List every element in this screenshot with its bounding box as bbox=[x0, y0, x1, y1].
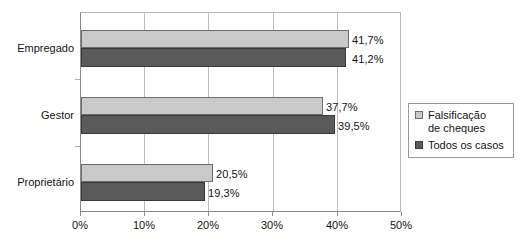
legend-swatch-falsificacao-de-cheques bbox=[415, 111, 423, 119]
bar-empregado-falsificacao-de-cheques bbox=[81, 30, 349, 48]
y-axis-label-proprietario: Proprietário bbox=[17, 176, 74, 188]
data-label-empregado-todos-os-casos: 41,2% bbox=[352, 54, 384, 65]
x-axis-label-40pct: 40% bbox=[326, 219, 348, 231]
legend-item-todos-os-casos: Todos os casos bbox=[415, 139, 508, 152]
x-axis-label-10pct: 10% bbox=[133, 219, 155, 231]
bar-proprietario-todos-os-casos bbox=[81, 182, 205, 201]
bar-gestor-falsificacao-de-cheques bbox=[81, 97, 323, 115]
x-axis-label-0pct: 0% bbox=[72, 219, 88, 231]
bar-proprietario-falsificacao-de-cheques bbox=[81, 164, 213, 182]
y-axis-label-gestor: Gestor bbox=[41, 109, 74, 121]
data-label-gestor-falsificacao-de-cheques: 37,7% bbox=[326, 102, 358, 113]
legend-label-falsificacao-de-cheques: Falsificação de cheques bbox=[428, 109, 486, 135]
bar-empregado-todos-os-casos bbox=[81, 48, 346, 67]
x-axis-label-20pct: 20% bbox=[197, 219, 219, 231]
y-axis-label-empregado: Empregado bbox=[17, 42, 74, 54]
x-axis-tick-30pct bbox=[272, 212, 273, 216]
data-label-proprietario-falsificacao-de-cheques: 20,5% bbox=[216, 169, 248, 180]
legend: Falsificação de cheques Todos os casos bbox=[408, 103, 514, 158]
x-axis-tick-0pct bbox=[80, 212, 81, 216]
bar-gestor-todos-os-casos bbox=[81, 115, 335, 134]
data-label-proprietario-todos-os-casos: 19,3% bbox=[208, 188, 240, 199]
bar-chart: Empregado Gestor Proprietário 41,7% 41,2… bbox=[0, 0, 521, 250]
legend-item-falsificacao-de-cheques: Falsificação de cheques bbox=[415, 109, 508, 135]
x-axis-tick-40pct bbox=[337, 212, 338, 216]
legend-label-todos-os-casos: Todos os casos bbox=[428, 139, 504, 152]
legend-swatch-todos-os-casos bbox=[415, 141, 423, 149]
data-label-empregado-falsificacao-de-cheques: 41,7% bbox=[352, 35, 384, 46]
x-axis-tick-50pct bbox=[401, 212, 402, 216]
x-axis-label-30pct: 30% bbox=[261, 219, 283, 231]
x-axis-label-50pct: 50% bbox=[390, 219, 412, 231]
x-axis-tick-20pct bbox=[208, 212, 209, 216]
x-axis-tick-10pct bbox=[144, 212, 145, 216]
data-label-gestor-todos-os-casos: 39,5% bbox=[338, 121, 370, 132]
y-axis-category-labels: Empregado Gestor Proprietário bbox=[0, 0, 74, 250]
